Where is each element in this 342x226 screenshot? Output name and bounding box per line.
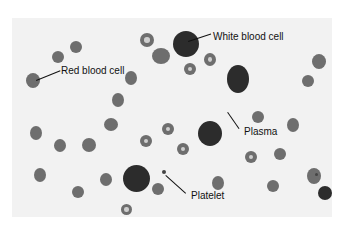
red-blood-cell	[152, 48, 170, 64]
red-blood-cell	[30, 126, 42, 140]
red-blood-cell	[212, 176, 224, 190]
white-blood-cell	[198, 121, 222, 146]
platelet	[162, 170, 166, 174]
red-blood-cell	[267, 180, 279, 192]
red-blood-cell	[274, 148, 286, 160]
red-blood-cell	[162, 123, 174, 135]
white-blood-cell	[227, 65, 249, 93]
red-blood-cell	[177, 143, 189, 155]
red-blood-cell	[112, 93, 124, 107]
red-blood-cell	[287, 118, 299, 132]
white-blood-cell	[173, 31, 199, 57]
red-blood-cell	[100, 173, 112, 186]
label-plasma: Plasma	[244, 126, 277, 137]
red-blood-cell	[245, 151, 257, 163]
red-blood-cell	[125, 71, 137, 85]
red-blood-cell	[307, 168, 321, 184]
red-blood-cell	[82, 138, 96, 152]
red-blood-cell	[184, 63, 196, 75]
red-blood-cell	[312, 54, 326, 69]
red-blood-cell	[52, 51, 64, 63]
white-blood-cell	[318, 186, 332, 200]
label-platelet: Platelet	[191, 190, 224, 201]
red-blood-cell	[140, 135, 152, 147]
white-blood-cell	[123, 165, 150, 192]
red-blood-cell	[104, 118, 118, 131]
red-blood-cell	[204, 53, 216, 66]
label-white-blood-cell: White blood cell	[213, 31, 284, 42]
red-blood-cell	[121, 204, 132, 215]
red-blood-cell	[72, 186, 84, 198]
red-blood-cell	[26, 73, 40, 88]
blood-smear-image	[12, 18, 332, 217]
red-blood-cell	[70, 41, 82, 53]
red-blood-cell	[54, 139, 66, 152]
red-blood-cell	[152, 183, 164, 195]
red-blood-cell	[252, 111, 264, 123]
red-blood-cell	[34, 168, 46, 182]
platelet	[315, 173, 318, 176]
red-blood-cell	[302, 75, 314, 87]
red-blood-cell	[140, 33, 154, 47]
label-red-blood-cell: Red blood cell	[61, 65, 124, 76]
